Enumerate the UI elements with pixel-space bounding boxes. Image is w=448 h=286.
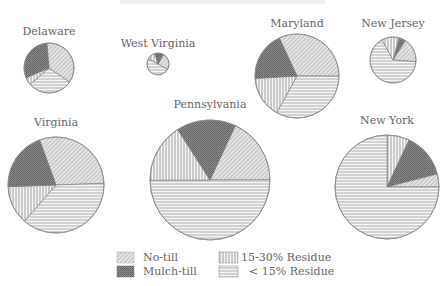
- legend-item-mulch-till: Mulch-till: [117, 265, 197, 278]
- state-label-delaware: Delaware: [22, 25, 75, 38]
- state-label-maryland: Maryland: [270, 17, 324, 30]
- no-till-swatch: [117, 252, 134, 263]
- residue-15-30-swatch: [219, 252, 238, 263]
- state-label-virginia: Virginia: [33, 116, 79, 129]
- state-label-west-virginia: West Virginia: [121, 37, 196, 50]
- pie-new-york: New York: [335, 114, 439, 239]
- state-label-pennsylvania: Pennsylvania: [174, 98, 247, 111]
- pie-pennsylvania: Pennsylvania: [150, 98, 270, 240]
- legend-item-no-till: No-till: [117, 251, 178, 264]
- chart-title: [120, 0, 325, 4]
- mulch-till-swatch: [117, 266, 134, 277]
- pie-new-jersey: New Jersey: [361, 17, 425, 83]
- legend-item-lt-15-residue: < 15% Residue: [219, 265, 334, 278]
- pie-maryland: Maryland: [255, 17, 339, 118]
- pie-chart-figure: DelawareWest VirginiaMarylandNew JerseyV…: [0, 0, 448, 286]
- slice-residue-lt-15: [150, 180, 270, 240]
- legend-label-lt-15-residue: < 15% Residue: [249, 265, 334, 278]
- pie-west-virginia: West Virginia: [121, 37, 196, 75]
- residue-lt-15-swatch: [219, 266, 238, 277]
- legend-item-15-30-residue: 15-30% Residue: [219, 251, 331, 264]
- state-label-new-york: New York: [360, 114, 414, 127]
- pie-virginia: Virginia: [8, 116, 104, 233]
- state-label-new-jersey: New Jersey: [361, 17, 425, 30]
- legend-label-15-30-residue: 15-30% Residue: [241, 251, 331, 264]
- legend-label-mulch-till: Mulch-till: [143, 265, 197, 278]
- legend-label-no-till: No-till: [143, 251, 178, 264]
- state-pies: DelawareWest VirginiaMarylandNew JerseyV…: [8, 17, 439, 240]
- pie-delaware: Delaware: [22, 25, 75, 93]
- legend: No-till Mulch-till 15-30% Residue < 15% …: [117, 251, 334, 278]
